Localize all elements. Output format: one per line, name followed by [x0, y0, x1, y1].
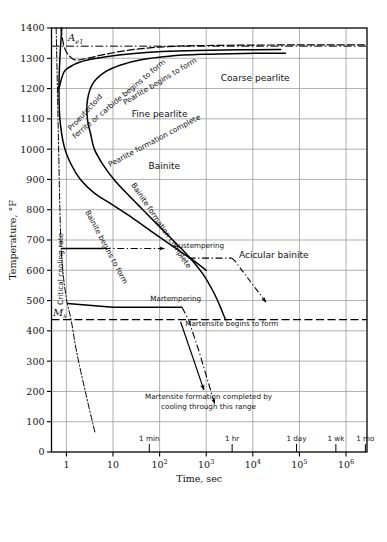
region-label: Fine pearlite — [132, 109, 188, 119]
y-axis-tick-label: 0 — [38, 446, 44, 457]
x-axis-title: Time, sec — [176, 473, 222, 484]
time-marker-label: 1 wk — [327, 434, 345, 443]
y-axis-tick-label: 800 — [26, 204, 44, 215]
region-label: Coarse pearlite — [221, 73, 290, 83]
y-axis-tick-label: 400 — [26, 325, 44, 336]
y-axis-title: Temperature, °F — [7, 200, 18, 280]
x-axis-tick-label: 1 — [63, 459, 69, 470]
x-axis-tick-label: 10 — [107, 459, 119, 470]
region-label: Acicular bainite — [239, 250, 309, 260]
y-axis-tick-label: 100 — [26, 416, 44, 427]
y-axis-tick-label: 1000 — [20, 144, 44, 155]
ttt-diagram-figure: 0100200300400500600700800900100011001200… — [0, 0, 387, 542]
time-marker-label: 1 hr — [225, 434, 239, 443]
y-axis-tick-label: 1100 — [20, 113, 44, 124]
y-axis-tick-label: 500 — [26, 295, 44, 306]
y-axis-tick-label: 900 — [26, 174, 44, 185]
annotation-label: cooling through this range — [161, 402, 257, 411]
annotation-label: Martensite formation completed by — [145, 392, 273, 401]
y-axis-tick-label: 300 — [26, 356, 44, 367]
annotation-label: Austempering — [174, 241, 225, 250]
label-critical-cooling-rate: Critical cooling rate — [56, 232, 65, 305]
annotation-label: Martempering — [150, 294, 201, 303]
y-axis-tick-label: 200 — [26, 386, 44, 397]
y-axis-tick-label: 700 — [26, 234, 44, 245]
time-marker-label: 1 mo — [356, 434, 374, 443]
ttt-diagram-svg: 0100200300400500600700800900100011001200… — [0, 0, 387, 542]
y-axis-tick-label: 1200 — [20, 83, 44, 94]
y-axis-tick-label: 600 — [26, 265, 44, 276]
region-label: Bainite — [149, 161, 181, 171]
y-axis-tick-label: 1400 — [20, 22, 44, 33]
y-axis-tick-label: 1300 — [20, 53, 44, 64]
time-marker-label: 1 min — [139, 434, 159, 443]
time-marker-label: 1 day — [286, 434, 307, 443]
annotation-label: Martensite begins to form — [185, 319, 278, 328]
